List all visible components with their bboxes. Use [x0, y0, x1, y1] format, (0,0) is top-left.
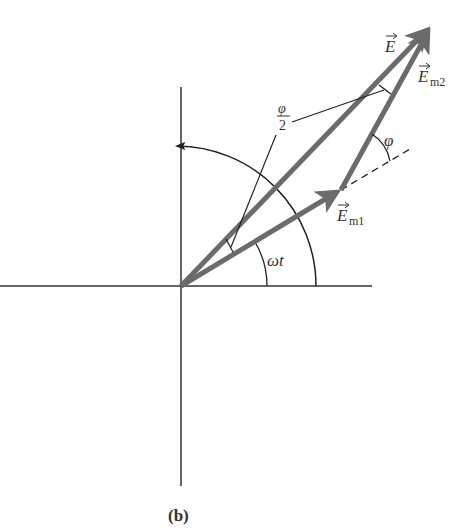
svg-text:E: E — [336, 206, 348, 225]
half-phi-leader-top — [292, 90, 384, 122]
label-em1: E m1 — [336, 202, 364, 228]
label-em2: E m2 — [417, 63, 445, 89]
label-half-phi: φ 2 — [277, 101, 290, 133]
svg-text:2: 2 — [279, 118, 286, 133]
svg-text:φ: φ — [278, 101, 286, 116]
phasor-diagram: E E m2 E m1 φ φ 2 ωt (b) — [0, 0, 453, 530]
label-phi: φ — [384, 131, 393, 150]
svg-text:m1: m1 — [349, 214, 364, 228]
half-phi-mark-top — [379, 85, 391, 94]
svg-text:E: E — [417, 67, 429, 86]
svg-text:m2: m2 — [430, 75, 445, 89]
label-e: E — [384, 33, 397, 56]
figure-caption: (b) — [168, 506, 189, 525]
svg-text:E: E — [384, 37, 396, 56]
omega-t-angle-arc — [255, 242, 267, 286]
vector-e — [181, 30, 427, 286]
label-omega-t: ωt — [267, 251, 285, 270]
